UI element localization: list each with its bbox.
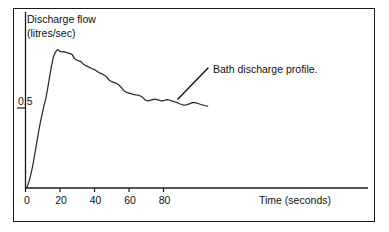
y-axis-title-line2: (litres/sec) [27, 27, 75, 40]
y-axis-tick-label-0point5: 0.5 [18, 95, 33, 108]
y-axis-title-line1: Discharge flow [27, 13, 96, 26]
x-axis-tick-label-20: 20 [55, 194, 67, 206]
x-axis-tick-label-80: 80 [159, 194, 171, 206]
annotation-leader-line [178, 68, 208, 99]
x-axis-tick-label-0: 0 [24, 194, 30, 206]
x-axis-tick-label-40: 40 [90, 194, 102, 206]
x-axis-tick-label-60: 60 [124, 194, 136, 206]
series-annotation-label: Bath discharge profile. [213, 63, 317, 76]
figure-root: Discharge flow (litres/sec) 0.5 0 20 40 … [0, 0, 389, 232]
x-axis-title: Time (seconds) [259, 194, 331, 207]
discharge-flow-curve [27, 50, 208, 188]
